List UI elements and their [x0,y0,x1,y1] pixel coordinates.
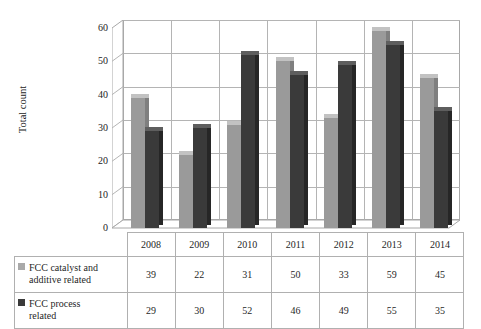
bar-front-face [145,131,159,228]
axis-depth-side-face [112,20,124,228]
table-header-year-2011: 2011 [271,233,319,257]
bar-2013-series-2 [386,45,400,228]
y-tick-40: 40 [82,90,108,100]
table-header-year-2009: 2009 [175,233,223,257]
bar-front-face [324,118,338,228]
bar-2012-series-2 [338,65,352,228]
bar-2009-series-1 [179,155,193,228]
table-cell-2014-row2: 35 [416,292,464,328]
gridline-y-60 [123,20,460,21]
table-cell-2008-row2: 29 [127,292,175,328]
gridline-x-1 [171,20,172,220]
bar-front-face [372,31,386,228]
bar-side-face [207,128,211,225]
bar-2010-series-2 [241,55,255,228]
bar-front-face [420,78,434,228]
table-row: FCC processrelated29305246495535 [15,292,464,328]
table-cell-2008-row1: 39 [127,256,175,292]
bar-2011-series-2 [290,75,304,228]
legend-entry-2: FCC processrelated [15,292,128,328]
bar-2012-series-1 [324,118,338,228]
table-cell-2011-row1: 50 [271,256,319,292]
bar-front-face [193,128,207,228]
table-cell-2014-row1: 45 [416,256,464,292]
gridline-y-50 [123,53,460,54]
table-cell-2009-row1: 22 [175,256,223,292]
bar-front-face [276,61,290,228]
bar-2008-series-2 [145,131,159,228]
bar-front-face [290,75,304,228]
bar-side-face [255,55,259,225]
gridline-x-6 [412,20,413,220]
y-tick-30: 30 [82,123,108,133]
bar-front-face [179,155,193,228]
gridline-x-5 [364,20,365,220]
table-cell-2011-row2: 46 [271,292,319,328]
bar-front-face [241,55,255,228]
y-tick-50: 50 [82,56,108,66]
bar-2014-series-1 [420,78,434,228]
bar-side-face [352,65,356,225]
bar-front-face [227,125,241,228]
legend-label: FCC catalyst andadditive related [29,262,113,285]
table-header-year-2008: 2008 [127,233,175,257]
y-axis-title: Total count [17,62,28,158]
gridline-x-4 [316,20,317,220]
table-cell-2010-row1: 31 [223,256,271,292]
bar-2014-series-2 [434,111,448,228]
table-header-year-2014: 2014 [416,233,464,257]
bar-front-face [338,65,352,228]
y-axis-tick-labels: 0102030405060 [82,20,108,230]
table-cell-2010-row2: 52 [223,292,271,328]
bar-side-face [400,45,404,225]
bar-side-face [304,75,308,225]
y-tick-60: 60 [82,23,108,33]
bar-2008-series-1 [131,98,145,228]
bar-front-face [434,111,448,228]
table-header-corner [15,233,128,257]
y-tick-10: 10 [82,190,108,200]
bar-side-face [159,131,163,225]
gridline-x-2 [219,20,220,220]
legend-swatch-icon [18,299,25,306]
y-tick-20: 20 [82,156,108,166]
legend-entry-1: FCC catalyst andadditive related [15,256,128,292]
bar-2010-series-1 [227,125,241,228]
bar-side-face [448,111,452,225]
table-cell-2013-row1: 59 [368,256,416,292]
bar-2013-series-1 [372,31,386,228]
legend-label: FCC processrelated [29,298,113,321]
bar-front-face [386,45,400,228]
table-cell-2012-row1: 33 [320,256,368,292]
table-cell-2012-row2: 49 [320,292,368,328]
bar-front-face [131,98,145,228]
bar-2009-series-2 [193,128,207,228]
table-cell-2009-row2: 30 [175,292,223,328]
table-header-year-2012: 2012 [320,233,368,257]
gridline-x-3 [267,20,268,220]
plot-area [112,20,461,230]
data-table: 2008200920102011201220132014FCC catalyst… [14,232,464,329]
table-header-row: 2008200920102011201220132014 [15,233,464,257]
table-header-year-2013: 2013 [368,233,416,257]
bar-2011-series-1 [276,61,290,228]
table-header-year-2010: 2010 [223,233,271,257]
table-row: FCC catalyst andadditive related39223150… [15,256,464,292]
legend-swatch-icon [18,263,25,270]
table-cell-2013-row2: 55 [368,292,416,328]
